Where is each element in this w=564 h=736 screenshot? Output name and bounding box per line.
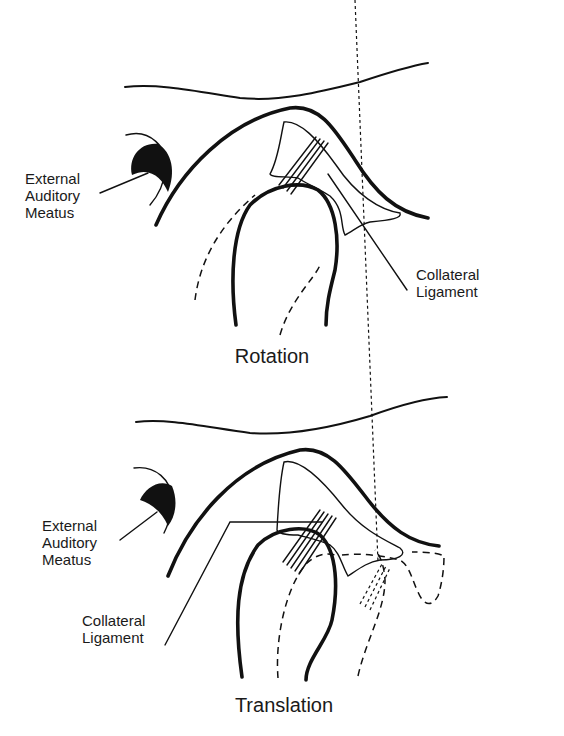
skull-base-line	[125, 63, 428, 99]
dashed-disc-outline	[342, 552, 444, 604]
meatus-shading	[140, 483, 175, 526]
dashed-condyle-left	[277, 554, 335, 678]
meatus-shading	[131, 144, 172, 192]
ligament-label-translation: Collateral Ligament	[82, 612, 145, 646]
condyle-outline	[233, 185, 337, 325]
panel-title-rotation: Rotation	[172, 345, 372, 368]
skull-base-line	[136, 397, 447, 434]
ligament-leader-line	[328, 174, 407, 290]
dashed-condyle-right	[280, 265, 320, 335]
ligament-label-rotation: Collateral Ligament	[416, 266, 479, 300]
dashed-condyle-right	[358, 550, 385, 676]
collateral-ligament-fibers	[283, 510, 336, 574]
meatus-label-translation: External Auditory Meatus	[42, 517, 97, 568]
meatus-label-rotation: External Auditory Meatus	[25, 170, 80, 221]
meatus-leader-line	[120, 512, 157, 540]
panel-title-translation: Translation	[184, 694, 384, 717]
glenoid-fossa	[156, 108, 428, 225]
rotation-panel	[100, 63, 428, 335]
translation-panel	[120, 0, 447, 680]
meatus-leader-line	[100, 173, 148, 193]
